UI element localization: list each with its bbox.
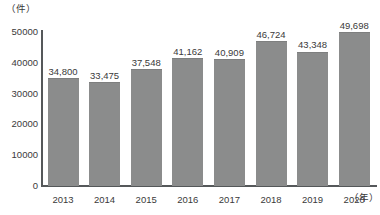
y-axis-tick-label: 30000 <box>0 89 38 99</box>
x-axis-category-label: 2015 <box>128 194 164 205</box>
bar[interactable] <box>172 58 203 186</box>
x-axis-category-label: 2019 <box>295 194 331 205</box>
y-axis-tick-label: 10000 <box>0 150 38 160</box>
bar[interactable] <box>131 69 162 186</box>
y-axis-tick-label: 0 <box>0 181 38 191</box>
bar[interactable] <box>297 52 328 187</box>
bar-value-label: 49,698 <box>326 20 380 31</box>
bar-chart: （件） 50000400003000020000100000 34,800201… <box>0 0 380 215</box>
bar-value-label: 43,348 <box>285 39 341 50</box>
bar-value-label: 37,548 <box>118 57 174 68</box>
y-axis-tick-label: 50000 <box>0 27 38 37</box>
bar[interactable] <box>48 78 79 186</box>
bar-group: 43,3482019 <box>295 0 331 215</box>
x-axis-category-label: 2018 <box>253 194 289 205</box>
bar[interactable] <box>339 32 370 186</box>
bar[interactable] <box>256 41 287 186</box>
y-axis-tick-label: 20000 <box>0 119 38 129</box>
bar-group: 46,7242018 <box>253 0 289 215</box>
bar-group: 34,8002013 <box>45 0 81 215</box>
bar-series: 34,800201333,475201437,548201541,1622016… <box>42 0 378 215</box>
x-axis-unit-label: （年） <box>349 192 379 204</box>
x-axis-category-label: 2013 <box>45 194 81 205</box>
bar-group: 33,4752014 <box>87 0 123 215</box>
bar-group: 37,5482015 <box>128 0 164 215</box>
x-axis-category-label: 2014 <box>87 194 123 205</box>
bar-value-label: 33,475 <box>77 70 133 81</box>
x-axis-category-label: 2017 <box>211 194 247 205</box>
bar[interactable] <box>89 82 120 186</box>
bar-value-label: 40,909 <box>201 47 257 58</box>
y-axis-tick-labels: 50000400003000020000100000 <box>0 0 38 215</box>
y-axis-tick-label: 40000 <box>0 58 38 68</box>
bar-group: 40,9092017 <box>211 0 247 215</box>
bar-group: 49,6982020 <box>336 0 372 215</box>
bar-value-label: 46,724 <box>243 29 299 40</box>
bar-group: 41,1622016 <box>170 0 206 215</box>
bar[interactable] <box>214 59 245 186</box>
x-axis-category-label: 2016 <box>170 194 206 205</box>
